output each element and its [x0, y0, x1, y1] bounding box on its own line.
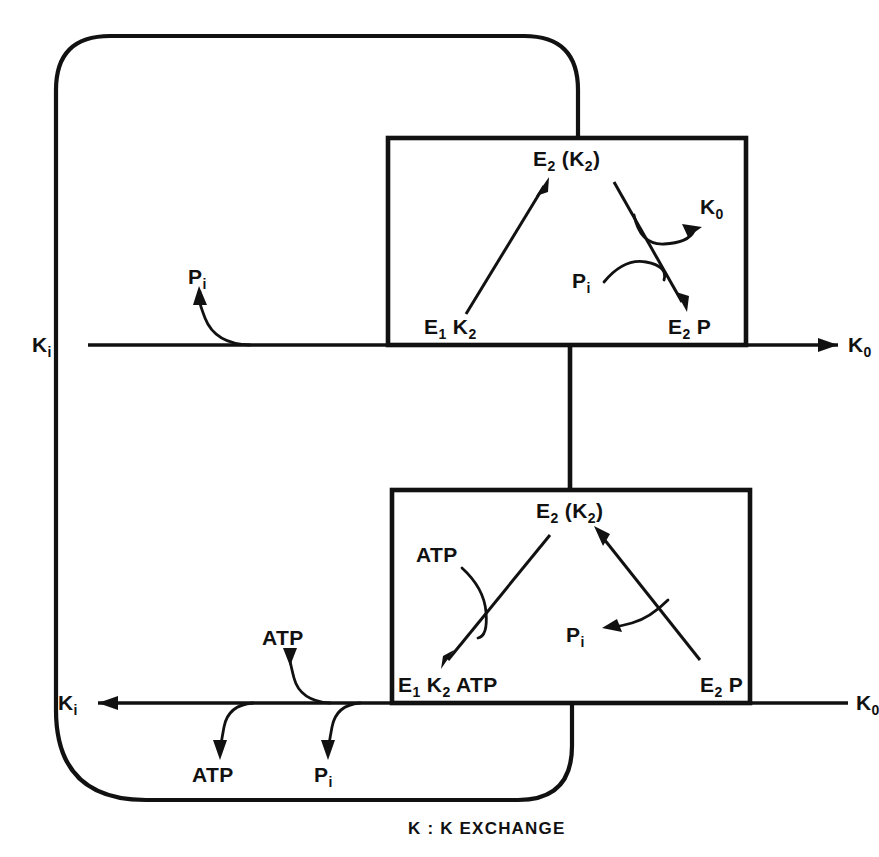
lower-rail-atp-out-arrowhead-icon	[213, 740, 227, 760]
lower-left-diagonal-arrowhead-icon	[441, 650, 454, 669]
lower-pi-arrowhead-icon	[602, 619, 622, 632]
upper-rail-arrowhead-icon	[818, 338, 838, 352]
diagram-canvas: Ki K0 Pi E2 (K2) E1 K2 E2 P K0 Pi	[0, 0, 879, 857]
lower-left-species-label: E1 K2 ATP	[398, 673, 498, 700]
upper-k0-label: K0	[700, 195, 724, 222]
figure-caption: K : K EXCHANGE	[408, 819, 566, 838]
outer-loop-upper-arc	[56, 36, 578, 800]
lower-rail-atp-out-label: ATP	[192, 763, 234, 786]
upper-pi-label: Pi	[572, 269, 591, 296]
k-k-exchange-scheme: Ki K0 Pi E2 (K2) E1 K2 E2 P K0 Pi	[0, 0, 879, 857]
upper-left-diagonal-arrowhead-icon	[536, 177, 549, 196]
lower-atp-label: ATP	[416, 543, 458, 566]
upper-rail-right-label: K0	[848, 333, 872, 360]
upper-right-species-label: E2 P	[668, 315, 711, 342]
upper-top-species-label: E2 (K2)	[533, 147, 600, 174]
lower-rail-atp-in-label: ATP	[262, 626, 304, 649]
lower-right-species-label: E2 P	[700, 673, 743, 700]
lower-pi-label: Pi	[566, 623, 585, 650]
lower-rail-atp-in-arrowhead-icon	[283, 648, 297, 666]
upper-left-species-label: E1 K2	[424, 315, 477, 342]
upper-rail-left-label: Ki	[32, 333, 52, 360]
lower-rail-atp-in-curve	[290, 652, 331, 703]
lower-top-species-label: E2 (K2)	[536, 499, 603, 526]
upper-left-diagonal-arrow	[466, 186, 544, 314]
lower-right-diagonal-arrow	[600, 534, 700, 660]
lower-pi-release-curve	[610, 600, 668, 627]
lower-left-diagonal-arrow	[448, 535, 550, 660]
lower-rail-arrowhead-icon	[98, 696, 118, 710]
upper-rail-pi-branch-curve	[198, 292, 250, 345]
upper-pi-consume-curve	[604, 261, 665, 282]
lower-rail-pi-out-label: Pi	[314, 763, 333, 790]
lower-rail-pi-out-arrowhead-icon	[321, 740, 335, 760]
lower-rail-left-label: Ki	[58, 691, 78, 718]
upper-right-diagonal-arrowhead-icon	[676, 292, 689, 312]
lower-rail-right-label: K0	[856, 691, 879, 718]
upper-rail-pi-label: Pi	[188, 265, 207, 292]
